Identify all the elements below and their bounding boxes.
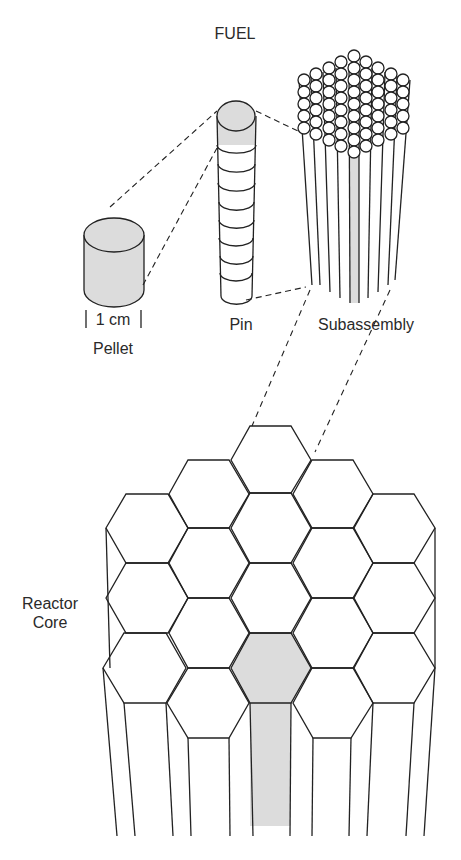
pellet-icon <box>84 218 144 328</box>
pin-icon <box>217 101 256 304</box>
fuel-diagram <box>0 0 461 860</box>
reactor-core-icon <box>103 426 435 836</box>
subassembly-core-links <box>252 290 390 452</box>
subassembly-icon <box>298 50 410 303</box>
